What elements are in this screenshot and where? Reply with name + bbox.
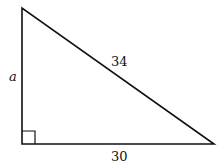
label-hypotenuse: 34: [111, 54, 128, 69]
triangle-diagram: a 34 30: [0, 0, 224, 167]
label-base: 30: [111, 149, 128, 164]
right-angle-marker: [22, 131, 35, 144]
right-triangle: [22, 8, 214, 144]
label-vertical-leg: a: [9, 69, 17, 84]
